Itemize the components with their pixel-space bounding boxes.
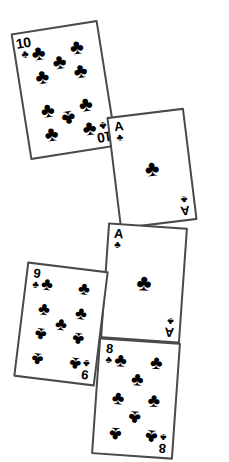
card-corner-index-top-left: A♣ (110, 227, 126, 250)
club-pip-icon: ♣ (31, 350, 45, 369)
card-face: 9♣9♣♣♣♣♣♣♣♣♣♣ (15, 264, 106, 385)
club-pip-icon: ♣ (34, 325, 48, 344)
card-scene: 10♣10♣♣♣♣♣♣♣♣♣♣♣A♣A♣♣A♣A♣♣9♣9♣♣♣♣♣♣♣♣♣♣8… (0, 0, 229, 462)
club-pip-icon: ♣ (147, 390, 161, 410)
card-face: A♣A♣♣ (109, 110, 196, 227)
club-pip-icon: ♣ (51, 50, 68, 73)
club-pip-icon: ♣ (30, 41, 47, 64)
club-suit-icon: ♣ (180, 195, 188, 205)
club-pip-icon: ♣ (68, 354, 82, 373)
club-pip-icon: ♣ (68, 35, 85, 58)
club-pip-icon: ♣ (143, 157, 160, 181)
card-rank-label: 8 (159, 442, 167, 455)
card-corner-index-bottom-right: A♣ (177, 195, 194, 219)
club-pip-icon: ♣ (71, 330, 85, 349)
playing-card[interactable]: 8♣8♣♣♣♣♣♣♣♣♣ (91, 337, 181, 459)
club-suit-icon: ♣ (32, 279, 40, 289)
club-pip-icon: ♣ (130, 369, 144, 389)
club-pip-icon: ♣ (77, 93, 94, 116)
club-pip-icon: ♣ (74, 303, 88, 322)
club-pip-icon: ♣ (114, 350, 128, 370)
playing-card[interactable]: 9♣9♣♣♣♣♣♣♣♣♣♣ (13, 261, 109, 386)
club-pip-icon: ♣ (77, 279, 91, 298)
club-pip-icon: ♣ (43, 122, 60, 145)
club-pip-icon: ♣ (60, 107, 77, 130)
playing-card[interactable]: 10♣10♣♣♣♣♣♣♣♣♣♣♣ (11, 20, 118, 160)
club-pip-icon: ♣ (136, 271, 153, 295)
club-pip-icon: ♣ (37, 299, 51, 318)
club-pip-icon: ♣ (54, 314, 68, 333)
club-pip-icon: ♣ (144, 427, 158, 447)
club-suit-icon: ♣ (21, 49, 30, 60)
playing-card[interactable]: A♣A♣♣ (106, 108, 197, 230)
card-rank-label: A (180, 204, 190, 218)
card-corner-index-bottom-right: A♣ (162, 316, 178, 339)
club-pip-icon: ♣ (72, 58, 89, 81)
club-pip-icon: ♣ (81, 116, 98, 139)
card-corner-index-top-left: A♣ (111, 119, 128, 143)
club-suit-icon: ♣ (167, 317, 174, 326)
club-suit-icon: ♣ (105, 355, 112, 364)
club-pip-icon: ♣ (39, 99, 56, 122)
club-suit-icon: ♣ (114, 240, 121, 249)
club-pip-icon: ♣ (40, 274, 54, 293)
club-pip-icon: ♣ (34, 64, 51, 87)
club-suit-icon: ♣ (116, 132, 124, 142)
club-pip-icon: ♣ (111, 387, 125, 407)
club-pip-icon: ♣ (128, 408, 142, 428)
club-pip-icon: ♣ (109, 425, 123, 445)
playing-card[interactable]: A♣A♣♣ (100, 222, 188, 343)
club-pip-icon: ♣ (150, 353, 164, 373)
club-suit-icon: ♣ (83, 359, 91, 369)
club-suit-icon: ♣ (160, 433, 167, 442)
card-face: A♣A♣♣ (102, 224, 186, 341)
card-face: 10♣10♣♣♣♣♣♣♣♣♣♣♣ (13, 22, 115, 158)
card-face: 8♣8♣♣♣♣♣♣♣♣♣ (93, 339, 179, 457)
card-rank-label: 9 (81, 368, 89, 382)
card-rank-label: A (165, 326, 175, 340)
